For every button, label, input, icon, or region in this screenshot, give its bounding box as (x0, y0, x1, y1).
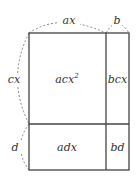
dimension-label-ax: ax (63, 14, 77, 27)
area-model-diagram: ax b cx d acx2 bcx adx bd (0, 0, 136, 180)
cell-label-bcx: bcx (108, 73, 128, 86)
cell-label-adx: adx (57, 141, 78, 154)
cell-label-acx2: acx2 (55, 72, 79, 86)
cell-label-bd: bd (110, 141, 124, 154)
dimension-label-cx: cx (8, 73, 21, 86)
dimension-label-b: b (113, 14, 120, 27)
dimension-label-d: d (11, 141, 18, 154)
